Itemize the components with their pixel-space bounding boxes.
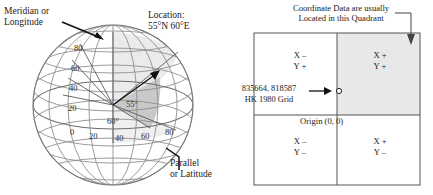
meridian-longitude-label: Meridian orLongitude	[4, 6, 49, 27]
longitude-tick-40: 40	[115, 133, 124, 143]
origin-label: Origin (0, 0)	[300, 117, 343, 127]
longitude-angle-label: 60°	[107, 116, 119, 126]
quadrant-ul-x: X –	[265, 50, 335, 61]
longitude-tick-60: 60	[141, 131, 150, 141]
quadrant-lower-left-signs: X – Y –	[265, 136, 335, 157]
coordinate-readout: 835664, 818587 HK 1980 Grid	[223, 84, 315, 105]
highlighted-quadrant	[337, 33, 420, 115]
quadrant-lr-x: X +	[345, 136, 415, 147]
quadrant-upper-left-signs: X – Y +	[265, 50, 335, 71]
coordinate-value: 835664, 818587	[223, 84, 315, 95]
latitude-tick-80: 80	[74, 43, 83, 53]
quadrant-caption: Coordinate Data are usuallyLocated in th…	[271, 4, 411, 23]
quadrant-ur-y: Y +	[345, 61, 415, 72]
quadrant-ur-x: X +	[345, 50, 415, 61]
latitude-tick-60: 60	[71, 63, 80, 73]
quadrant-ul-y: Y +	[265, 61, 335, 72]
quadrant-upper-right-signs: X + Y +	[345, 50, 415, 71]
quadrant-lower-right-signs: X + Y –	[345, 136, 415, 157]
longitude-tick-20: 20	[89, 131, 98, 141]
parallel-latitude-label: Parallelor Latitude	[170, 158, 212, 179]
latitude-tick-20: 20	[68, 103, 77, 113]
longitude-tick-80: 80	[165, 127, 174, 137]
quadrant-ll-y: Y –	[265, 147, 335, 158]
quadrant-ll-x: X –	[265, 136, 335, 147]
location-label: Location:55°N 60°E	[148, 10, 190, 31]
quadrant-diagram-panel: Coordinate Data are usuallyLocated in th…	[217, 0, 433, 195]
latitude-angle-label: 55°	[126, 99, 138, 109]
quadrant-lr-y: Y –	[345, 147, 415, 158]
latitude-tick-0: 0	[70, 127, 74, 137]
latitude-tick-40: 40	[69, 83, 78, 93]
coordinate-system: HK 1980 Grid	[223, 95, 315, 106]
figure-root: Meridian orLongitude Location:55°N 60°E …	[0, 0, 433, 195]
globe-diagram-panel: Meridian orLongitude Location:55°N 60°E …	[0, 0, 217, 195]
coordinate-point-marker	[336, 88, 341, 93]
